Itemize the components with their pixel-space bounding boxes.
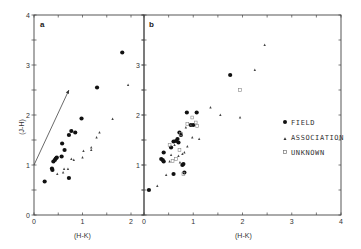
field-point [67,176,71,180]
x-tick-label: 2 [241,218,245,225]
field-point [60,154,64,158]
association-point [63,168,65,170]
association-point [73,159,75,161]
legend-unknown-label: UNKNOWN [291,149,325,157]
x-tick-label: 1 [191,218,195,225]
y-tick-label: 2 [26,112,30,119]
association-point [183,151,185,153]
field-point [120,50,124,54]
field-point [147,188,151,192]
association-point [219,114,221,116]
plot-frames [34,15,341,215]
legend: FIELD ASSOCIATION UNKNOWN [283,119,344,157]
y-tick-label: 3 [26,62,30,69]
x-tick-label: 0 [142,218,146,225]
association-point [209,106,211,108]
x-tick-label: 2 [129,218,133,225]
reddening-arrow [34,90,69,165]
color-color-diagram: 0120123401234123 a b (H-K) (H-K) (J-H) F… [0,0,361,249]
unknown-point [171,160,174,163]
y-tick-label: 0 [26,212,30,219]
association-point [156,185,158,187]
legend-field-label: FIELD [291,119,315,127]
panel-b-x-title: (H-K) [235,232,252,240]
x-tick-label: 0 [32,218,36,225]
association-point [181,153,183,155]
association-point [62,171,64,173]
field-point [69,129,73,133]
panel-b-label: b [149,20,154,29]
association-point [82,150,84,152]
unknown-point [178,149,181,152]
unknown-point [196,125,199,128]
field-point [60,141,64,145]
panel-a-x-title: (H-K) [74,232,91,240]
unknown-point [194,121,197,124]
association-point [168,160,170,162]
y-tick-label: 2 [136,112,140,119]
field-point [228,73,232,77]
association-point [239,116,241,118]
panel-a-y-title: (J-H) [18,119,26,135]
unknown-point [186,123,189,126]
panel-a-label: a [40,20,45,29]
association-point [170,154,172,156]
association-point [98,131,100,133]
y-tick-label: 4 [26,12,30,19]
association-point [165,174,167,176]
legend-field-marker [283,120,287,124]
field-point [62,148,66,152]
field-point [43,179,47,183]
association-point [254,69,256,71]
association-point [186,145,188,147]
legend-association-label: ASSOCIATION [291,134,344,142]
y-tick-label: 3 [136,62,140,69]
association-point [173,144,175,146]
unknown-point [239,89,242,92]
unknown-point [191,116,194,119]
unknown-point [175,158,178,161]
field-point [73,130,77,134]
data-points [43,44,266,193]
field-point [195,110,199,114]
association-point [90,146,92,148]
legend-unknown-marker [284,151,287,154]
association-point [95,136,97,138]
association-point [90,149,92,151]
association-point [67,168,69,170]
association-point [81,156,83,158]
field-point [162,159,166,163]
field-point [191,123,195,127]
field-point [95,85,99,89]
x-tick-label: 4 [339,218,343,225]
field-point [79,116,83,120]
association-point [179,161,181,163]
x-tick-label: 3 [290,218,294,225]
field-point [55,155,59,159]
association-point [56,173,58,175]
field-point [185,110,189,114]
field-point [176,140,180,144]
field-point [162,150,166,154]
y-tick-label: 1 [26,162,30,169]
association-point [191,136,193,138]
association-point [263,44,265,46]
association-point [127,84,129,86]
field-point [50,168,54,172]
association-point [70,158,72,160]
panel-b-frame [144,15,341,215]
association-point [198,138,200,140]
association-point [111,118,113,120]
y-tick-label: 1 [136,162,140,169]
x-tick-label: 1 [81,218,85,225]
legend-association-marker [284,137,287,140]
field-point [171,172,175,176]
field-point [67,133,71,137]
field-point [181,162,185,166]
association-point [185,126,187,128]
panel-a-frame [34,15,144,215]
association-point [177,155,179,157]
